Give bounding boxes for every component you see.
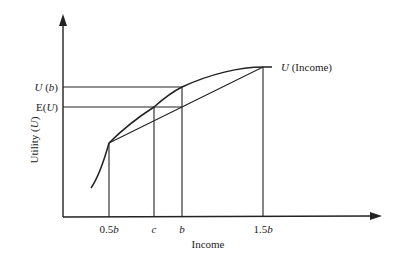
y-axis-arrow-icon: [59, 14, 67, 26]
x-tick-b: b: [179, 223, 185, 235]
diagram-canvas: U (Income) U (b) E(U) Utility (U) 0.5b c…: [0, 0, 395, 260]
y-tick-ub: U (b): [34, 81, 58, 94]
x-axis-label: Income: [192, 238, 225, 250]
utility-diagram: U (Income) U (b) E(U) Utility (U) 0.5b c…: [0, 0, 395, 260]
x-tick-05b: 0.5b: [99, 223, 119, 235]
x-tick-15b: 1.5b: [253, 223, 273, 235]
curve-label: U (Income): [281, 61, 332, 74]
y-axis-label: Utility (U): [28, 116, 41, 163]
expected-utility-chord: [109, 67, 263, 143]
y-tick-eu: E(U): [36, 101, 58, 114]
x-tick-c: c: [152, 223, 157, 235]
x-axis-arrow-icon: [370, 212, 382, 220]
